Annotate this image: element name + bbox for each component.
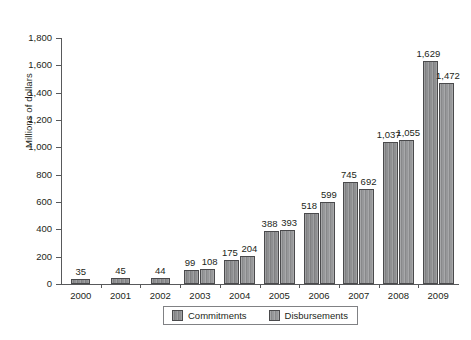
bar-column: 35 xyxy=(71,279,90,284)
y-axis-tick-label: 1,600 xyxy=(28,59,52,70)
bar xyxy=(71,279,90,284)
bar-column: 108 xyxy=(200,269,215,284)
legend-label-commitments: Commitments xyxy=(188,310,247,321)
legend-item-commitments: Commitments xyxy=(172,310,247,321)
bar xyxy=(439,83,454,284)
y-axis-tick-label: 200 xyxy=(36,251,52,262)
x-axis-tick-mark xyxy=(260,284,261,288)
bar-group: 518599 xyxy=(299,38,339,284)
bar-column: 599 xyxy=(320,202,335,284)
bar-group: 45 xyxy=(101,38,141,284)
bar-column: 393 xyxy=(280,230,295,284)
bar-group-bars: 44 xyxy=(140,38,180,284)
x-axis-tick-mark xyxy=(140,284,141,288)
bar xyxy=(151,278,170,284)
bar xyxy=(343,182,358,284)
bar-value-label: 1,055 xyxy=(396,128,420,138)
bar-value-label: 1,629 xyxy=(416,49,440,59)
bar-group: 35 xyxy=(61,38,101,284)
bar-value-label: 599 xyxy=(321,190,337,200)
chart-legend: Commitments Disbursements xyxy=(163,306,358,325)
bar-value-label: 692 xyxy=(361,177,377,187)
bar-column: 745 xyxy=(343,182,358,284)
x-axis-tick-mark xyxy=(379,284,380,288)
bar xyxy=(111,278,130,284)
legend-swatch-disbursements xyxy=(269,310,280,321)
bar-value-label: 388 xyxy=(262,219,278,229)
bar-column: 1,629 xyxy=(423,61,438,284)
bar-column: 99 xyxy=(184,270,199,284)
bar xyxy=(240,256,255,284)
bar-column: 1,037 xyxy=(383,142,398,284)
bar-value-label: 204 xyxy=(242,244,258,254)
bar xyxy=(320,202,335,284)
bar-value-label: 35 xyxy=(76,267,87,277)
bar-chart: Millions of dollars 02004006008001,0001,… xyxy=(0,0,471,340)
bar xyxy=(264,231,279,284)
bar xyxy=(200,269,215,284)
bar-group-bars: 1,0371,055 xyxy=(379,38,419,284)
x-axis-tick-label: 2007 xyxy=(339,290,379,301)
x-axis-tick-mark xyxy=(339,284,340,288)
bar xyxy=(423,61,438,284)
bar-value-label: 175 xyxy=(222,248,238,258)
y-axis-tick-label: 800 xyxy=(36,169,52,180)
bar-value-label: 1,472 xyxy=(436,71,460,81)
bar-column: 45 xyxy=(111,278,130,284)
bar xyxy=(184,270,199,284)
bar-group-bars: 35 xyxy=(61,38,101,284)
bar-value-label: 99 xyxy=(185,258,196,268)
y-axis-tick-label: 1,200 xyxy=(28,114,52,125)
y-axis-tick-label: 1,000 xyxy=(28,141,52,152)
y-axis-tick-label: 1,400 xyxy=(28,87,52,98)
bar-column: 44 xyxy=(151,278,170,284)
bar-group: 175204 xyxy=(220,38,260,284)
bar-group: 44 xyxy=(140,38,180,284)
bar-group: 99108 xyxy=(180,38,220,284)
x-axis-tick-mark xyxy=(180,284,181,288)
bar xyxy=(359,189,374,284)
y-axis-tick-label: 0 xyxy=(47,278,52,289)
x-axis-tick-mark xyxy=(101,284,102,288)
x-axis-tick-label: 2006 xyxy=(299,290,339,301)
x-axis-tick-label: 2005 xyxy=(260,290,300,301)
bar-value-label: 518 xyxy=(301,201,317,211)
x-axis-tick-label: 2001 xyxy=(101,290,141,301)
bar-column: 388 xyxy=(264,231,279,284)
bar-column: 1,472 xyxy=(439,83,454,284)
bar xyxy=(383,142,398,284)
legend-swatch-commitments xyxy=(172,310,183,321)
bar xyxy=(280,230,295,284)
x-axis-tick-label: 2004 xyxy=(220,290,260,301)
bar-group-bars: 99108 xyxy=(180,38,220,284)
bar-column: 692 xyxy=(359,189,374,284)
bar-value-label: 45 xyxy=(115,266,126,276)
y-axis-tick-mark xyxy=(56,284,61,285)
legend-item-disbursements: Disbursements xyxy=(269,310,348,321)
legend-label-disbursements: Disbursements xyxy=(285,310,348,321)
bar-value-label: 108 xyxy=(202,257,218,267)
y-axis-title: Millions of dollars xyxy=(23,36,34,186)
x-axis-tick-label: 2008 xyxy=(379,290,419,301)
bar xyxy=(304,213,319,284)
bar-group: 388393 xyxy=(260,38,300,284)
bar-group-bars: 388393 xyxy=(260,38,300,284)
x-axis-tick-label: 2009 xyxy=(418,290,458,301)
y-axis-tick-label: 400 xyxy=(36,223,52,234)
x-axis-tick-mark xyxy=(299,284,300,288)
bar-value-label: 745 xyxy=(341,170,357,180)
bar-group-bars: 1,6291,472 xyxy=(418,38,458,284)
x-axis-tick-label: 2000 xyxy=(61,290,101,301)
bar-group: 1,6291,472 xyxy=(418,38,458,284)
y-axis-tick-label: 600 xyxy=(36,196,52,207)
x-axis-tick-mark xyxy=(418,284,419,288)
x-axis-tick-mark xyxy=(220,284,221,288)
bar-column: 175 xyxy=(224,260,239,284)
bar-column: 518 xyxy=(304,213,319,284)
bar-column: 1,055 xyxy=(399,140,414,284)
x-axis-tick-label: 2003 xyxy=(180,290,220,301)
bar-group-bars: 518599 xyxy=(299,38,339,284)
bar-group-bars: 175204 xyxy=(220,38,260,284)
bar xyxy=(224,260,239,284)
bar-value-label: 393 xyxy=(281,218,297,228)
